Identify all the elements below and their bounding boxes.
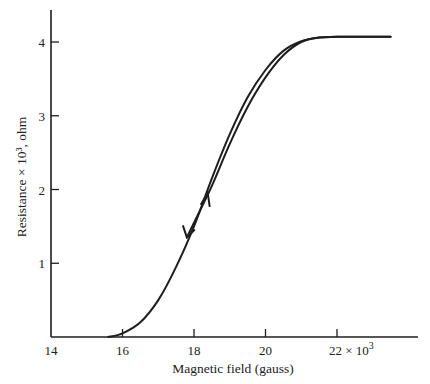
x-tick-label: 20 <box>259 343 272 358</box>
x-tick-label: 16 <box>116 343 130 358</box>
axes <box>51 10 418 337</box>
x-tick-label: 14 <box>45 343 59 358</box>
curves <box>108 37 390 337</box>
hysteresis-chart: 1416182022 × 1031234Magnetic field (gaus… <box>0 0 430 384</box>
y-tick-label: 4 <box>39 35 46 50</box>
y-axis-title: Resistance × 10³, ohm <box>14 116 29 237</box>
x-axis-title: Magnetic field (gauss) <box>172 361 293 376</box>
y-tick-label: 1 <box>39 256 46 271</box>
labels: 1416182022 × 1031234Magnetic field (gaus… <box>14 35 374 376</box>
curve-down <box>187 37 391 238</box>
x-tick-label: 22 × 103 <box>329 340 374 358</box>
curve-up <box>108 37 390 337</box>
x-tick-label: 18 <box>188 343 201 358</box>
y-tick-label: 2 <box>39 183 46 198</box>
y-tick-label: 3 <box>39 109 46 124</box>
